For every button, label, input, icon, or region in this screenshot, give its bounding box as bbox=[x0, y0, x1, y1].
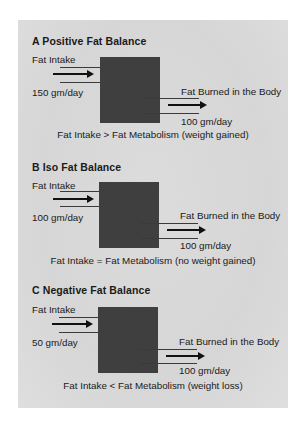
intake-label: Fat Intake bbox=[32, 54, 76, 65]
burn-line-top bbox=[140, 349, 197, 350]
section-caption: Fat Intake = Fat Metabolism (no weight g… bbox=[18, 255, 288, 266]
burn-value: 100 gm/day bbox=[180, 240, 231, 251]
burn-label: Fat Burned in the Body bbox=[180, 210, 280, 221]
burn-value: 100 gm/day bbox=[181, 116, 232, 127]
intake-label: Fat Intake bbox=[32, 180, 76, 191]
burn-line-top bbox=[141, 223, 198, 224]
section-caption: Fat Intake > Fat Metabolism (weight gain… bbox=[18, 129, 288, 140]
section-title: B Iso Fat Balance bbox=[32, 161, 121, 173]
section-caption: Fat Intake < Fat Metabolism (weight loss… bbox=[18, 380, 288, 391]
section-negative-balance: C Negative Fat Balance Fat Intake 50 gm/… bbox=[18, 284, 288, 414]
burn-label: Fat Burned in the Body bbox=[179, 336, 279, 347]
section-iso-balance: B Iso Fat Balance Fat Intake 100 gm/day … bbox=[18, 161, 288, 291]
burn-line-bottom bbox=[141, 238, 198, 239]
burn-value: 100 gm/day bbox=[179, 365, 230, 376]
section-title: C Negative Fat Balance bbox=[32, 284, 150, 296]
section-title: A Positive Fat Balance bbox=[32, 35, 146, 47]
intake-arrow-icon bbox=[53, 198, 89, 200]
section-positive-balance: A Positive Fat Balance Fat Intake 150 gm… bbox=[18, 35, 288, 165]
burn-arrow-icon bbox=[166, 355, 200, 357]
burn-arrow-icon bbox=[168, 104, 202, 106]
intake-label: Fat Intake bbox=[32, 304, 76, 315]
intake-arrow-icon bbox=[52, 323, 88, 325]
burn-line-bottom bbox=[142, 113, 199, 114]
burn-line-bottom bbox=[140, 363, 197, 364]
intake-value: 150 gm/day bbox=[32, 87, 83, 98]
burn-line-top bbox=[142, 98, 199, 99]
burn-arrow-icon bbox=[167, 229, 201, 231]
diagram-panel: A Positive Fat Balance Fat Intake 150 gm… bbox=[18, 20, 288, 408]
burn-label: Fat Burned in the Body bbox=[181, 86, 281, 97]
intake-value: 100 gm/day bbox=[32, 212, 83, 223]
intake-arrow-icon bbox=[53, 73, 89, 75]
intake-value: 50 gm/day bbox=[32, 337, 78, 348]
